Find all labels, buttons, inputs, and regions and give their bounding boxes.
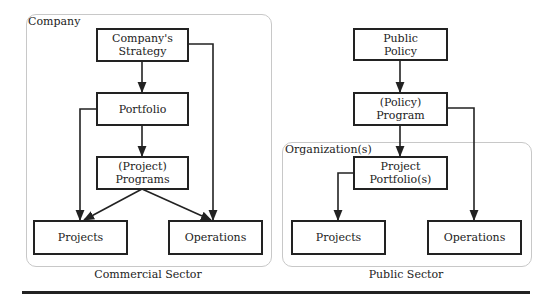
node-public-policy: PublicPolicy [353, 28, 448, 61]
commercial-sector-caption: Commercial Sector [78, 268, 218, 281]
node-public-projects: Projects [291, 220, 386, 255]
node-project-portfolios: ProjectPortfolio(s) [353, 156, 448, 190]
node-project-programs: (Project)Programs [96, 156, 189, 190]
node-public-operations: Operations [427, 220, 522, 255]
node-commercial-operations: Operations [168, 220, 263, 255]
node-company-strategy: Company'sStrategy [96, 28, 189, 62]
bottom-rule [22, 291, 530, 294]
node-portfolio: Portfolio [96, 92, 189, 126]
node-commercial-projects: Projects [33, 220, 128, 255]
public-sector-caption: Public Sector [336, 268, 476, 281]
node-policy-program: (Policy)Program [353, 92, 448, 126]
